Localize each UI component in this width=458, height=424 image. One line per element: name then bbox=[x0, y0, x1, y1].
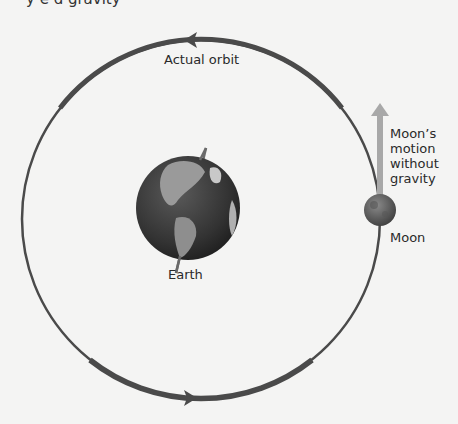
moon-motion-arrow-icon bbox=[371, 103, 389, 198]
orbit-label: Actual orbit bbox=[164, 52, 239, 67]
moon-motion-label: Moon’s motion without gravity bbox=[390, 126, 454, 186]
earth-label: Earth bbox=[168, 267, 203, 282]
earth-icon bbox=[136, 148, 240, 273]
moon-icon bbox=[364, 194, 396, 226]
moon-label: Moon bbox=[390, 230, 425, 245]
